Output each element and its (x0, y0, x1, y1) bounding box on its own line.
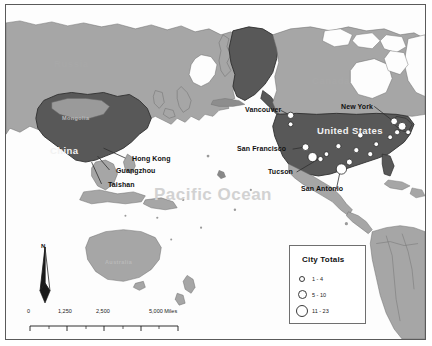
legend-label-medium: 5 - 10 (312, 292, 326, 298)
city-symbol-denver (336, 144, 341, 149)
city-symbol-philadelphia (395, 130, 400, 135)
scale-label-5000-miles: 5,000 Miles (149, 308, 177, 314)
island-speck-9 (345, 222, 348, 225)
island-speck-5 (234, 209, 236, 211)
city-symbol-los-angeles (308, 153, 317, 162)
city-symbol-chicago (358, 132, 364, 138)
legend: City Totals 1 - 4 5 - 10 11 - 23 (289, 245, 366, 324)
city-symbol-boston (398, 122, 406, 130)
city-symbol-san-antonio (336, 164, 346, 174)
scale-label-2500: 2,500 (96, 308, 110, 314)
city-symbol-atlanta (374, 142, 379, 147)
legend-label-small: 1 - 4 (312, 276, 323, 282)
legend-row-large: 11 - 23 (299, 305, 329, 317)
city-symbol-new-york (391, 118, 398, 125)
city-symbol-san-francisco (302, 144, 309, 151)
scale-bar-icon (28, 317, 180, 333)
island-speck-4 (200, 227, 202, 229)
island-speck-3 (156, 217, 158, 219)
city-symbol-midwest (354, 148, 359, 153)
island-speck-1 (207, 155, 210, 158)
map-figure: Russia Mongolia China Canada United Stat… (0, 0, 432, 346)
scale-label-1250: 1,250 (58, 308, 72, 314)
island-speck-7 (124, 215, 126, 217)
city-symbol-houston (346, 159, 352, 165)
city-symbol-phoenix (324, 152, 329, 157)
legend-symbol-medium (298, 290, 307, 299)
island-speck-6 (250, 189, 252, 191)
map-frame: Russia Mongolia China Canada United Stat… (5, 4, 426, 340)
legend-title: City Totals (302, 255, 345, 264)
north-arrow-icon (34, 243, 56, 305)
city-symbol-southeast (368, 152, 373, 157)
legend-symbol-small (299, 276, 305, 282)
city-symbol-tucson (318, 156, 323, 161)
legend-symbol-large (296, 305, 308, 317)
city-symbol-dc (388, 135, 393, 140)
city-symbol-vancouver (287, 112, 293, 118)
legend-label-large: 11 - 23 (312, 308, 329, 314)
island-speck-2 (182, 199, 184, 201)
island-speck-8 (170, 239, 172, 241)
scale-label-0: 0 (27, 308, 30, 314)
legend-row-small: 1 - 4 (299, 276, 323, 282)
legend-row-medium: 5 - 10 (299, 290, 326, 299)
city-symbol-seattle (288, 122, 293, 127)
city-symbol-northeast-2 (406, 130, 411, 135)
